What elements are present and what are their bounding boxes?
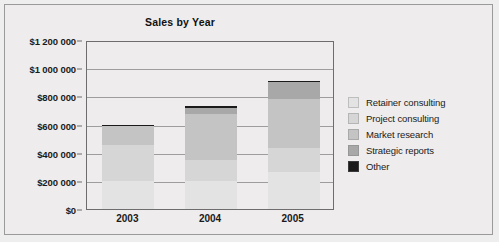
legend-swatch-icon xyxy=(348,129,359,140)
x-tick-label: 2004 xyxy=(199,213,221,224)
x-axis: 200320042005 xyxy=(86,213,334,233)
bar-stack-2005[interactable] xyxy=(268,81,320,209)
y-tick-mark xyxy=(77,69,82,70)
legend-item-label: Project consulting xyxy=(366,113,439,124)
y-tick-mark xyxy=(77,41,82,42)
bar-stack-2004[interactable] xyxy=(185,106,237,209)
legend-item[interactable]: Project consulting xyxy=(348,111,488,126)
chart-legend: Retainer consultingProject consultingMar… xyxy=(348,95,488,175)
bar-segment[interactable] xyxy=(102,145,154,181)
legend-swatch-icon xyxy=(348,113,359,124)
bar-segment[interactable] xyxy=(268,81,320,82)
bar-segment[interactable] xyxy=(185,181,237,209)
y-tick-label: $400 000 xyxy=(37,148,76,159)
y-tick-label: $1 000 000 xyxy=(29,64,76,75)
bar-segment[interactable] xyxy=(102,125,154,126)
y-tick-label: $0 xyxy=(66,205,76,216)
y-tick-label: $200 000 xyxy=(37,176,76,187)
legend-item[interactable]: Market research xyxy=(348,127,488,142)
legend-item[interactable]: Other xyxy=(348,159,488,174)
legend-item-label: Retainer consulting xyxy=(366,97,445,108)
y-tick-label: $600 000 xyxy=(37,120,76,131)
bar-segment[interactable] xyxy=(185,114,237,160)
plot-area xyxy=(86,41,334,210)
bar-segment[interactable] xyxy=(268,82,320,99)
x-tick-label: 2003 xyxy=(116,213,138,224)
y-tick-mark xyxy=(77,181,82,182)
bar-segment[interactable] xyxy=(268,148,320,172)
y-tick-mark xyxy=(77,125,82,126)
bar-segment[interactable] xyxy=(185,160,237,181)
legend-swatch-icon xyxy=(348,161,359,172)
bar-segment[interactable] xyxy=(102,181,154,209)
legend-item-label: Other xyxy=(366,161,389,172)
y-tick-mark xyxy=(77,153,82,154)
bar-segment[interactable] xyxy=(102,126,154,145)
legend-item-label: Market research xyxy=(366,129,433,140)
y-axis: $0$200 000$400 000$600 000$800 000$1 000… xyxy=(0,41,82,210)
chart-figure: Sales by Year $0$200 000$400 000$600 000… xyxy=(0,0,499,242)
y-tick-label: $800 000 xyxy=(37,92,76,103)
bar-segment[interactable] xyxy=(185,108,237,114)
bar-segment[interactable] xyxy=(102,125,154,126)
bar-segment[interactable] xyxy=(185,106,237,107)
legend-item[interactable]: Retainer consulting xyxy=(348,95,488,110)
legend-item-label: Strategic reports xyxy=(366,145,434,156)
legend-swatch-icon xyxy=(348,145,359,156)
legend-item[interactable]: Strategic reports xyxy=(348,143,488,158)
gridline xyxy=(87,69,333,70)
y-tick-mark xyxy=(77,210,82,211)
gridline xyxy=(87,41,333,42)
bar-stack-2003[interactable] xyxy=(102,125,154,210)
y-tick-label: $1 200 000 xyxy=(29,36,76,47)
y-tick-mark xyxy=(77,97,82,98)
bar-segment[interactable] xyxy=(268,99,320,148)
bar-segment[interactable] xyxy=(268,172,320,209)
x-tick-label: 2005 xyxy=(282,213,304,224)
legend-swatch-icon xyxy=(348,97,359,108)
page-title: Sales by Year xyxy=(0,16,360,28)
